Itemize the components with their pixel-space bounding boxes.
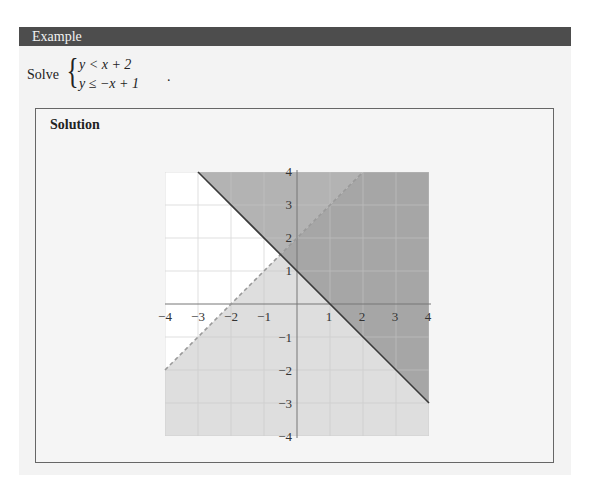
- y-tick: −1: [278, 330, 292, 345]
- x-tick: 4: [425, 309, 432, 324]
- x-tick: −2: [224, 309, 238, 324]
- x-tick: −3: [191, 309, 205, 324]
- y-tick: −3: [278, 396, 292, 411]
- x-tick: 2: [359, 309, 366, 324]
- y-tick: 3: [286, 197, 293, 212]
- y-tick: −4: [278, 429, 292, 444]
- y-tick: 1: [286, 263, 293, 278]
- x-tick: 3: [392, 309, 399, 324]
- y-tick: 2: [286, 230, 293, 245]
- x-tick: 1: [326, 309, 333, 324]
- y-tick: 4: [286, 164, 293, 179]
- x-tick: −1: [257, 309, 271, 324]
- y-tick: −2: [278, 363, 292, 378]
- x-tick: −4: [158, 309, 172, 324]
- inequality-graph: −4 −3 −2 −1 1 2 3 4 4 3 2 1 −1 −2 −3 −4: [0, 0, 590, 489]
